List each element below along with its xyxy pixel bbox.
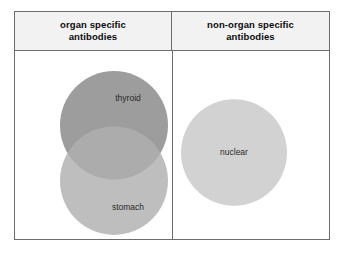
venn-circle-stomach [60,126,168,235]
venn-diagram-figure: organ specific antibodies non-organ spec… [0,0,344,253]
column-header-organ-specific-text: organ specific antibodies [60,19,126,43]
venn-label-thyroid: thyroid [115,92,141,102]
diagram-frame: organ specific antibodies non-organ spec… [14,11,330,240]
header-line-1: non-organ specific [207,19,294,30]
column-header-organ-specific: organ specific antibodies [15,12,172,50]
column-header-non-organ-specific-text: non-organ specific antibodies [207,19,294,43]
venn-label-nuclear: nuclear [220,147,248,157]
header-line-2: antibodies [69,31,118,42]
venn-circle-group [60,71,287,235]
diagram-body: thyroid stomach nuclear [15,51,329,240]
column-header-row: organ specific antibodies non-organ spec… [15,12,329,51]
column-header-non-organ-specific: non-organ specific antibodies [172,12,329,50]
header-line-1: organ specific [60,19,126,30]
venn-circles-svg: thyroid stomach nuclear [15,51,329,240]
header-line-2: antibodies [226,31,275,42]
venn-label-stomach: stomach [112,202,144,212]
